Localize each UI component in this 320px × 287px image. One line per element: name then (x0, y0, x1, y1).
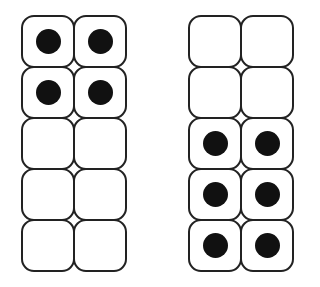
ten-frame-cell (73, 15, 127, 68)
counter-dot-icon (36, 29, 61, 54)
ten-frame-cell (21, 168, 75, 221)
counter-dot-icon (255, 131, 280, 156)
ten-frame-cell (73, 168, 127, 221)
ten-frame-cell (21, 219, 75, 272)
counter-dot-icon (255, 233, 280, 258)
right-ten-frame (189, 16, 293, 271)
ten-frame-cell (21, 66, 75, 119)
counter-dot-icon (203, 233, 228, 258)
ten-frame-cell (240, 66, 294, 119)
ten-frame-cell (73, 117, 127, 170)
counter-dot-icon (203, 182, 228, 207)
counter-dot-icon (88, 29, 113, 54)
ten-frame-cell (188, 15, 242, 68)
ten-frame-cell (240, 219, 294, 272)
ten-frame-cell (73, 219, 127, 272)
ten-frame-cell (240, 168, 294, 221)
ten-frame-cell (188, 117, 242, 170)
counter-dot-icon (203, 131, 228, 156)
ten-frame-cell (188, 219, 242, 272)
ten-frame-cell (188, 66, 242, 119)
left-ten-frame (22, 16, 126, 271)
ten-frame-cell (240, 15, 294, 68)
counter-dot-icon (88, 80, 113, 105)
ten-frame-cell (188, 168, 242, 221)
counter-dot-icon (255, 182, 280, 207)
ten-frame-cell (21, 117, 75, 170)
ten-frame-cell (240, 117, 294, 170)
ten-frame-cell (73, 66, 127, 119)
counter-dot-icon (36, 80, 61, 105)
ten-frame-cell (21, 15, 75, 68)
